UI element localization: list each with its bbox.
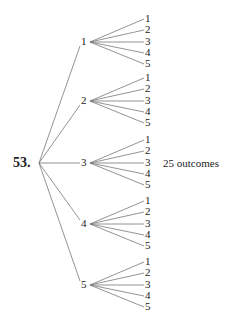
branch-line: [90, 285, 144, 307]
first-level-node: 2: [81, 95, 87, 106]
branch-line: [90, 224, 144, 235]
leaf-node: 2: [145, 267, 151, 278]
branch-line: [90, 42, 144, 64]
branch-line: [90, 285, 144, 296]
leaf-node: 5: [145, 117, 151, 128]
branch-line: [90, 78, 144, 101]
leaf-node: 5: [145, 179, 151, 190]
branch-line: [39, 163, 80, 281]
branch-line: [90, 140, 144, 163]
branch-line: [90, 30, 144, 42]
first-level-node: 4: [81, 218, 87, 229]
leaf-node: 5: [145, 301, 151, 312]
branch-line: [90, 19, 144, 42]
first-level-node: 3: [81, 157, 87, 168]
leaf-node: 2: [145, 145, 151, 156]
first-level-node: 5: [81, 279, 87, 290]
branch-line: [90, 163, 144, 174]
leaf-node: 2: [145, 24, 151, 35]
branch-line: [90, 201, 144, 224]
leaf-node: 2: [145, 206, 151, 217]
branch-line: [90, 262, 144, 285]
branch-line: [90, 212, 144, 224]
branch-line: [90, 42, 144, 53]
branch-line: [39, 163, 80, 220]
leaf-node: 5: [145, 58, 151, 69]
branch-line: [90, 101, 144, 112]
first-level-node: 1: [81, 36, 87, 47]
outcome-count: 25 outcomes: [163, 157, 219, 169]
branch-line: [90, 151, 144, 163]
branch-line: [90, 89, 144, 101]
branch-line: [90, 101, 144, 123]
branch-line: [90, 273, 144, 285]
branch-line: [90, 224, 144, 246]
problem-number: 53.: [13, 155, 31, 171]
leaf-node: 2: [145, 83, 151, 94]
leaf-node: 5: [145, 240, 151, 251]
branch-line: [90, 163, 144, 185]
branch-line: [39, 105, 80, 163]
branch-line: [39, 46, 80, 163]
